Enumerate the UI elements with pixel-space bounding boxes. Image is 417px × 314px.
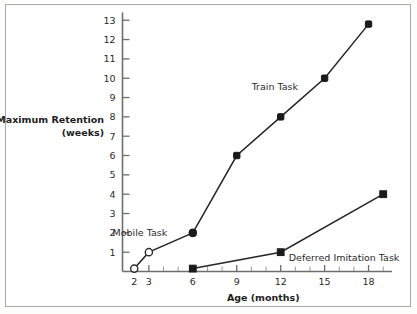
y-tick-label: 12 (103, 34, 115, 45)
data-point-open-circle (131, 265, 138, 272)
series-line (193, 24, 369, 233)
series-annotation-label: Train Task (251, 81, 299, 92)
series-label-group: Mobile TaskTrain TaskDeferred Imitation … (112, 81, 399, 263)
data-point-open-circle (145, 249, 152, 256)
y-tick-label: 8 (109, 111, 115, 122)
x-axis-ticks: 2369121518 (131, 265, 383, 287)
x-tick-label: 12 (275, 276, 287, 287)
data-point-filled-marker (321, 75, 327, 81)
x-axis-title: Age (months) (227, 292, 300, 303)
x-tick-label: 3 (146, 276, 152, 287)
y-tick-label: 5 (109, 169, 115, 180)
data-point-filled-marker (190, 230, 196, 236)
x-tick-label: 2 (131, 276, 137, 287)
series-annotation-label: Mobile Task (112, 227, 167, 238)
x-tick-label: 18 (363, 276, 375, 287)
y-tick-label: 3 (109, 208, 115, 219)
y-axis-ticks: 12345678910111213 (103, 15, 129, 258)
x-tick-label: 15 (319, 276, 331, 287)
y-tick-label: 13 (103, 15, 115, 26)
y-axis-title-line2: (weeks) (62, 127, 104, 138)
data-series-group (131, 21, 387, 272)
data-point-filled-square (277, 249, 284, 256)
data-point-filled-square (380, 191, 387, 198)
x-tick-label: 9 (234, 276, 240, 287)
y-axis-title-line1: Maximum Retention (0, 114, 104, 125)
series-annotation-label: Deferred Imitation Task (289, 252, 400, 263)
y-tick-label: 10 (103, 73, 115, 84)
y-tick-label: 1 (109, 247, 115, 258)
retention-line-chart: 12345678910111213 2369121518 Mobile Task… (0, 0, 417, 314)
y-tick-label: 4 (109, 189, 115, 200)
y-tick-label: 9 (109, 92, 115, 103)
y-tick-label: 11 (103, 53, 115, 64)
data-point-filled-square (189, 265, 196, 272)
data-point-filled-marker (277, 114, 283, 120)
data-point-filled-marker (365, 21, 371, 27)
y-tick-label: 7 (109, 131, 115, 142)
data-point-filled-marker (234, 152, 240, 158)
y-tick-label: 6 (109, 150, 115, 161)
x-tick-label: 6 (190, 276, 196, 287)
figure-container: 12345678910111213 2369121518 Mobile Task… (0, 0, 417, 314)
